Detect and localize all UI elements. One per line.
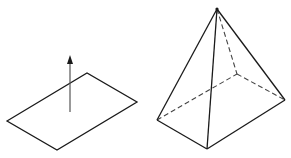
pyramid-visible-edges [157, 9, 285, 149]
pyramid-hidden-edges [157, 9, 285, 120]
arrow-head-icon [67, 55, 73, 64]
edge-apex-back [217, 9, 237, 74]
plane-figure [7, 55, 137, 150]
edge-apex-right [217, 9, 285, 100]
pyramid-figure [157, 7, 285, 149]
edge-apex-front [207, 9, 217, 149]
diagram-canvas [0, 0, 291, 158]
edge-front-right [207, 100, 285, 149]
edge-back-right [237, 74, 285, 100]
edge-left-front [157, 120, 207, 149]
plane-parallelogram [7, 73, 137, 150]
apex-point [215, 7, 218, 10]
